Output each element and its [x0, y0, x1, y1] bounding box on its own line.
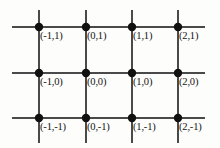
point-label: (0,1) — [87, 30, 106, 41]
point-label: (0,0) — [87, 76, 106, 87]
point-label: (2,-1) — [179, 121, 202, 132]
point-label: (1,-1) — [133, 121, 156, 132]
point-label: (2,1) — [179, 30, 198, 41]
point-label: (1,0) — [133, 76, 152, 87]
lattice-figure: (-1,1) (0,1) (1,1) (2,1) (-1,0) (0,0) (1… — [0, 0, 220, 148]
point-label: (1,1) — [133, 30, 152, 41]
point-label: (-1,0) — [40, 76, 63, 87]
point-label: (0,-1) — [87, 121, 110, 132]
point-label: (-1,-1) — [40, 121, 66, 132]
point-label: (2,0) — [179, 76, 198, 87]
point-label: (-1,1) — [40, 30, 63, 41]
